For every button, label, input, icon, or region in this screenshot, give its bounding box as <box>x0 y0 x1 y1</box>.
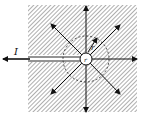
current-label: I <box>13 46 19 57</box>
electrode-diagram: I r r <box>0 0 142 118</box>
